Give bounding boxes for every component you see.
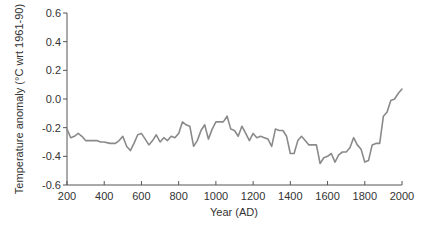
x-axis: 200400600800100012001400160018002000 xyxy=(58,181,414,202)
x-tick-label: 400 xyxy=(95,190,113,202)
y-tick-label: 0.2 xyxy=(46,64,61,76)
y-axis-title: Temperature anomaly (°C wrt 1961-90) xyxy=(13,4,25,194)
y-tick-label: -0.2 xyxy=(42,122,61,134)
temperature-anomaly-chart: 0.60.40.20.0-0.2-0.4-0.6 200400600800100… xyxy=(0,0,435,232)
y-tick-label: 0.4 xyxy=(46,36,61,48)
y-tick-label: 0.0 xyxy=(46,93,61,105)
y-axis: 0.60.40.20.0-0.2-0.4-0.6 xyxy=(42,7,67,191)
x-tick-label: 200 xyxy=(58,190,76,202)
x-tick-label: 1800 xyxy=(353,190,377,202)
y-tick-label: -0.4 xyxy=(42,150,61,162)
x-tick-label: 1400 xyxy=(278,190,302,202)
data-series xyxy=(67,89,402,164)
y-tick-label: 0.6 xyxy=(46,7,61,19)
x-tick-label: 600 xyxy=(132,190,150,202)
x-axis-title: Year (AD) xyxy=(210,206,258,218)
x-tick-label: 1200 xyxy=(241,190,265,202)
x-tick-label: 2000 xyxy=(390,190,414,202)
x-tick-label: 1000 xyxy=(204,190,228,202)
x-tick-label: 1600 xyxy=(315,190,339,202)
x-tick-label: 800 xyxy=(169,190,187,202)
temperature-line xyxy=(67,89,402,164)
